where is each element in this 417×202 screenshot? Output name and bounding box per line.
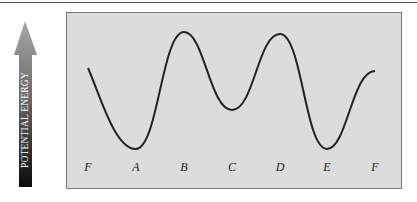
point-label-c: C: [228, 160, 236, 175]
point-label-f2: F: [371, 160, 378, 175]
energy-curve: [0, 0, 417, 202]
point-label-a: A: [132, 160, 139, 175]
point-label-f1: F: [84, 160, 91, 175]
point-label-e: E: [323, 160, 330, 175]
point-label-d: D: [276, 160, 285, 175]
point-label-b: B: [180, 160, 187, 175]
